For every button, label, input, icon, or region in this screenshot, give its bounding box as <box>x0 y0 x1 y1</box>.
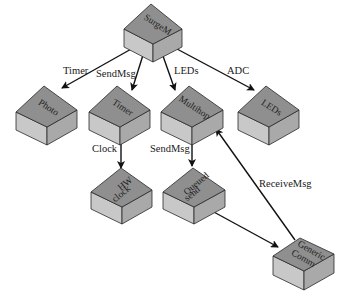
edge-label-adc: ADC <box>227 65 249 76</box>
edge-label-sendmsg-2: SendMsg <box>150 143 190 154</box>
node-hwclock[interactable]: HW clock <box>91 168 152 224</box>
node-timer[interactable]: Timer <box>89 86 150 145</box>
edge-queuedsend-genericcomm <box>212 211 278 247</box>
component-diagram: Timer SendMsg LEDs ADC Clock SendMsg Rec… <box>0 0 342 295</box>
node-multihop[interactable]: Multihop <box>161 86 223 145</box>
edge-label-timer: Timer <box>63 65 89 76</box>
node-surgem[interactable]: SurgeM <box>124 4 182 62</box>
edge-label-leds: LEDs <box>174 65 199 76</box>
node-photo[interactable]: Photo <box>16 86 77 145</box>
node-queuedsend[interactable]: Queued send <box>163 168 225 224</box>
node-leds[interactable]: LEDs <box>238 86 299 145</box>
node-genericcomm[interactable]: Generic Comm <box>273 238 334 290</box>
edge-label-clock: Clock <box>92 143 118 154</box>
edge-label-receivemsg: ReceiveMsg <box>259 178 312 189</box>
edge-label-sendmsg: SendMsg <box>96 68 136 79</box>
